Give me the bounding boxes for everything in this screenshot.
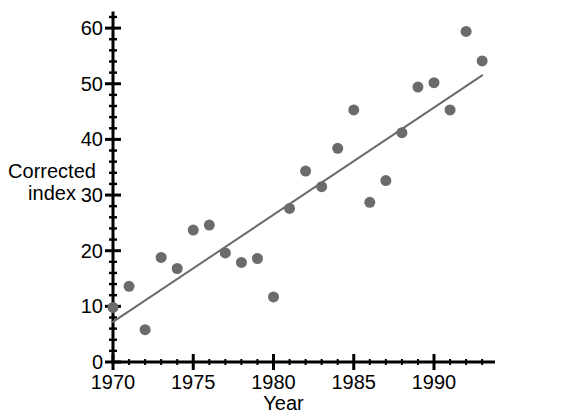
data-point: [220, 247, 231, 258]
data-point: [188, 225, 199, 236]
data-point: [156, 252, 167, 263]
x-axis-title: Year: [0, 392, 567, 414]
x-tick-label: 1975: [158, 372, 228, 392]
data-point: [477, 55, 488, 66]
data-point: [172, 263, 183, 274]
data-point: [316, 181, 327, 192]
axes: [105, 11, 495, 370]
y-tick-label: 50: [61, 74, 103, 94]
y-tick-label: 40: [61, 129, 103, 149]
data-point: [396, 127, 407, 138]
data-point: [284, 203, 295, 214]
data-point: [429, 77, 440, 88]
data-point: [412, 82, 423, 93]
y-tick-label: 20: [61, 241, 103, 261]
y-tick-label: 10: [61, 296, 103, 316]
data-point: [140, 324, 151, 335]
x-tick-label: 1990: [399, 372, 469, 392]
data-point: [252, 253, 263, 264]
x-tick-label: 1970: [78, 372, 148, 392]
data-point: [236, 257, 247, 268]
y-axis-title-line2: index: [4, 182, 100, 204]
data-point: [204, 220, 215, 231]
regression-line: [113, 75, 482, 322]
data-points: [108, 26, 488, 335]
data-point: [108, 302, 119, 313]
y-tick-label: 0: [61, 352, 103, 372]
x-tick-label: 1980: [239, 372, 309, 392]
data-point: [268, 291, 279, 302]
data-point: [461, 26, 472, 37]
y-tick-label: 60: [61, 18, 103, 38]
y-axis-title: Corrected index: [4, 160, 100, 204]
data-point: [380, 175, 391, 186]
data-point: [332, 143, 343, 154]
data-point: [124, 281, 135, 292]
data-point: [348, 104, 359, 115]
x-tick-label: 1985: [319, 372, 389, 392]
y-axis-title-line1: Corrected: [8, 160, 96, 182]
data-point: [364, 197, 375, 208]
data-point: [445, 104, 456, 115]
data-point: [300, 166, 311, 177]
